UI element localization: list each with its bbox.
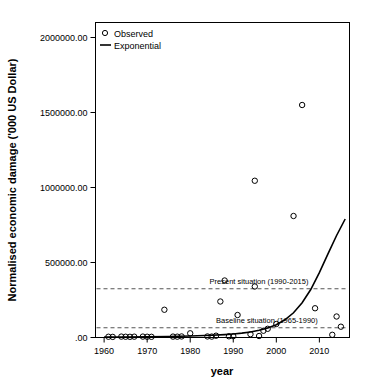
- legend-observed-label: Observed: [114, 29, 153, 39]
- x-tick-label: 2000: [266, 346, 286, 356]
- x-axis-title: year: [211, 365, 234, 377]
- x-tick-label: 1970: [137, 346, 157, 356]
- x-tick-label: 2010: [309, 346, 329, 356]
- y-tick-label: 500000.00: [45, 258, 88, 268]
- legend-exponential-label: Exponential: [114, 41, 161, 51]
- x-tick-label: 1960: [94, 346, 114, 356]
- scatter-plot: .00500000.001000000.001500000.002000000.…: [0, 0, 370, 383]
- y-tick-label: 1000000.00: [40, 183, 88, 193]
- x-tick-label: 1980: [180, 346, 200, 356]
- x-tick-label: 1990: [223, 346, 243, 356]
- y-tick-label: 2000000.00: [40, 33, 88, 43]
- chart-figure: .00500000.001000000.001500000.002000000.…: [0, 0, 370, 383]
- annotation-baseline-situation: Baseline situation (1965-1990): [216, 316, 318, 325]
- y-axis-title: Normalised economic damage ('000 US Doll…: [6, 58, 18, 301]
- y-tick-label: 1500000.00: [40, 108, 88, 118]
- y-tick-label: .00: [75, 333, 88, 343]
